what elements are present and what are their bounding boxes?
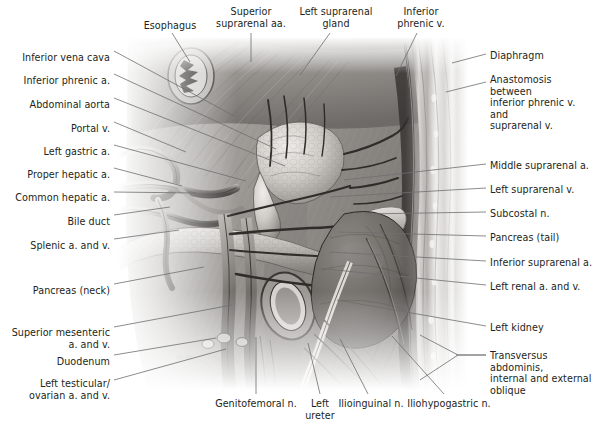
- label-bile-duct: Bile duct: [67, 216, 110, 228]
- label-iliohypogastric-n: Iliohypogastric n.: [369, 398, 529, 410]
- label-inferior-vena-cava: Inferior vena cava: [22, 52, 110, 64]
- label-subcostal-n: Subcostal n.: [490, 208, 550, 220]
- label-left-kidney: Left kidney: [490, 322, 544, 334]
- label-inferior-phrenic-v: Inferior phrenic v.: [341, 6, 501, 29]
- label-middle-suprarenal-a: Middle suprarenal a.: [490, 160, 589, 172]
- anatomy-figure: W.W. Inferior vena cavaInferior phrenic …: [0, 0, 594, 428]
- label-proper-hepatic-a: Proper hepatic a.: [27, 169, 110, 181]
- label-left-gastric-a: Left gastric a.: [44, 146, 110, 158]
- label-inferior-suprarenal-a: Inferior suprarenal a.: [490, 257, 592, 269]
- anatomical-illustration-plate: W.W.: [118, 38, 468, 390]
- label-splenic-a-and-v: Splenic a. and v.: [30, 240, 110, 252]
- label-left-testicular-ovarian: Left testicular/ ovarian a. and v.: [29, 378, 110, 401]
- label-diaphragm: Diaphragm: [490, 50, 544, 62]
- label-pancreas-neck: Pancreas (neck): [33, 285, 110, 297]
- label-transversus: Transversus abdominis, internal and exte…: [490, 350, 594, 396]
- label-left-suprarenal-v: Left suprarenal v.: [490, 184, 574, 196]
- label-inferior-phrenic-a: Inferior phrenic a.: [24, 75, 110, 87]
- label-pancreas-tail: Pancreas (tail): [490, 232, 559, 244]
- label-abdominal-aorta: Abdominal aorta: [30, 99, 110, 111]
- label-common-hepatic-a: Common hepatic a.: [15, 192, 110, 204]
- label-anastomosis: Anastomosis between inferior phrenic v. …: [490, 74, 594, 132]
- label-superior-mesenteric: Superior mesenteric a. and v.: [12, 327, 110, 350]
- label-duodenum: Duodenum: [57, 356, 110, 368]
- label-portal-v: Portal v.: [71, 123, 110, 135]
- label-left-renal-a-and-v: Left renal a. and v.: [490, 281, 580, 293]
